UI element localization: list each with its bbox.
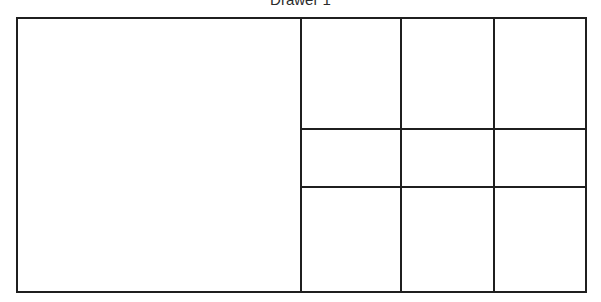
drawer-outline: [16, 17, 587, 293]
small-compartment: [495, 19, 585, 128]
drawer-title: Drawer 1: [0, 0, 601, 7]
small-compartment: [402, 130, 493, 186]
small-compartment: [402, 19, 493, 128]
small-compartment: [495, 130, 585, 186]
drawer-diagram: Drawer 1: [0, 0, 601, 302]
small-compartment: [495, 188, 585, 291]
small-compartment-grid: [302, 19, 585, 291]
large-compartment: [18, 19, 300, 291]
small-compartment: [302, 130, 400, 186]
small-compartment: [302, 188, 400, 291]
small-compartment: [402, 188, 493, 291]
small-compartment: [302, 19, 400, 128]
